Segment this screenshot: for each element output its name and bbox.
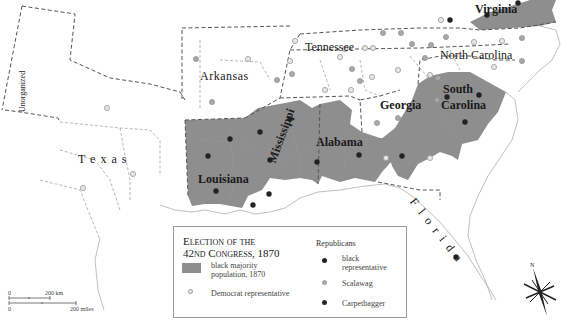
legend-title: Election of the 42nd Congress, 1870 <box>183 235 280 259</box>
scalawag-dot-icon <box>322 280 327 285</box>
legend-box: Election of the 42nd Congress, 1870 blac… <box>173 226 407 318</box>
republicans-heading: Republicans <box>316 239 356 248</box>
label-virginia: Virginia <box>475 2 517 17</box>
label-unorganized: Unorganized <box>18 71 27 112</box>
label-texas: T e x a s <box>78 152 127 167</box>
compass-north-label: N <box>530 262 534 268</box>
label-south: South <box>443 82 473 97</box>
black-majority-label: black majority population, 1870 <box>211 261 265 279</box>
scalawag-label: Scalawag <box>342 279 373 288</box>
democrat-label: Democrat representative <box>211 289 289 298</box>
legend-title-line1: Election of the <box>183 235 280 247</box>
compass-rose-icon <box>524 268 556 316</box>
label-louisiana: Louisiana <box>198 172 249 187</box>
carpetbagger-dot-icon <box>322 300 327 305</box>
label-tennessee: Tennessee <box>305 40 354 55</box>
scale-km-zero: 0 <box>8 290 11 296</box>
scale-mi-label: 200 miles <box>70 306 94 312</box>
black-rep-line1: black <box>342 254 387 263</box>
democrat-dot-icon <box>188 289 193 294</box>
black-rep-label: black representative <box>342 254 387 272</box>
carpetbagger-label: Carpetbagger <box>342 299 385 308</box>
label-arkansas: Arkansas <box>200 69 249 84</box>
label-alabama: Alabama <box>316 135 363 150</box>
black-majority-swatch <box>182 263 201 273</box>
label-carolina: Carolina <box>441 98 486 113</box>
black-rep-line2: representative <box>342 263 387 272</box>
legend-title-line2: 42nd Congress, 1870 <box>183 247 280 259</box>
scale-mi-zero: 0 <box>8 306 11 312</box>
black-rep-dot-icon <box>322 258 327 263</box>
black-majority-line1: black majority <box>211 261 265 270</box>
scale-bar <box>9 296 76 305</box>
label-north-carolina: North Carolina <box>440 48 512 63</box>
scale-km-label: 200 km <box>45 290 63 296</box>
black-majority-line2: population, 1870 <box>211 270 265 279</box>
label-georgia: Georgia <box>380 98 421 113</box>
